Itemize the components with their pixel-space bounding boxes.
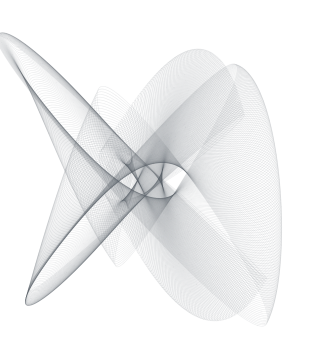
artwork-page — [0, 0, 314, 344]
harmonograph-canvas — [0, 0, 314, 344]
